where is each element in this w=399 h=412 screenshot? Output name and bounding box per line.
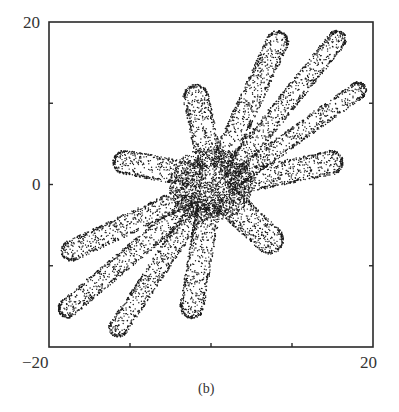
y-tick-label-top: 20 bbox=[23, 14, 40, 31]
y-tick-label-zero: 0 bbox=[32, 176, 41, 193]
figure-caption: (b) bbox=[198, 381, 214, 397]
plot-frame bbox=[49, 22, 373, 347]
x-tick-label-right: 20 bbox=[360, 354, 377, 371]
x-tick-label-left: −20 bbox=[22, 354, 49, 371]
scatter-chart bbox=[0, 0, 399, 412]
point-cloud bbox=[58, 30, 368, 338]
